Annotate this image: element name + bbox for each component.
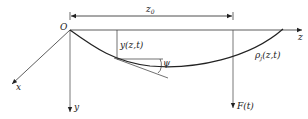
cable-deflection-diagram: z0 z y x O F(t) y(z,t) ψ ρj(z,t) [0,0,308,119]
force-label: F(t) [236,101,254,111]
z0-dimension: z0 [70,4,233,20]
origin-label: O [60,22,68,32]
cable-curve [70,29,283,67]
deflection-label: y(z,t) [119,40,144,50]
x-axis-label: x [16,82,21,92]
angle-label: ψ [163,58,171,68]
density-label: ρj(z,t) [254,50,281,62]
z0-label: z0 [145,4,155,15]
tangent-line [114,58,168,78]
z-axis-label: z [297,32,303,42]
y-axis-label: y [73,102,80,112]
x-axis [12,30,70,84]
